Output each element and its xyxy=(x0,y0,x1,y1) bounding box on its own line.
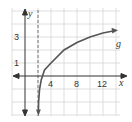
x-tick-12: 12 xyxy=(97,79,107,89)
x-tick-8: 8 xyxy=(74,79,79,89)
grid xyxy=(12,8,120,116)
x-axis-label: x xyxy=(118,77,124,88)
curve-g xyxy=(38,31,113,112)
y-axis-label: y xyxy=(27,8,33,19)
curve-label-g: g xyxy=(116,38,121,49)
curve-arrowhead xyxy=(112,28,119,34)
x-axis xyxy=(13,74,127,79)
graph-of-g: y x 3 1 4 8 12 g xyxy=(0,0,132,122)
y-tick-3: 3 xyxy=(14,32,19,42)
x-tick-4: 4 xyxy=(48,79,53,89)
y-axis xyxy=(23,9,28,116)
y-tick-1: 1 xyxy=(14,58,19,68)
